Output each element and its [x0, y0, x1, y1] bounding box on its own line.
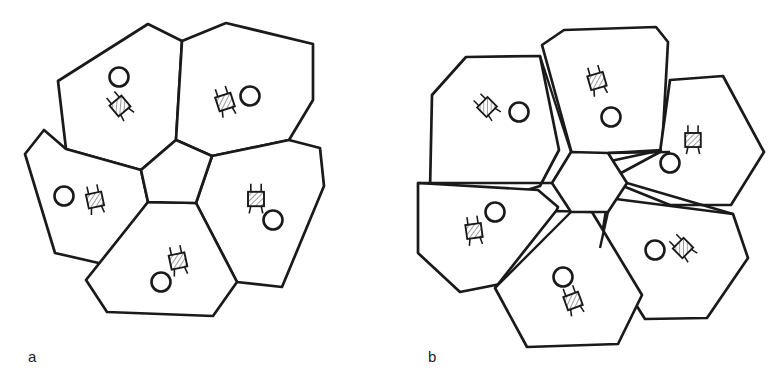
two-panel-floorplan-diagram	[0, 0, 776, 390]
figure-label-a: a	[28, 348, 37, 365]
figure-label-b: b	[428, 348, 437, 365]
room-b-top-outline	[542, 27, 668, 162]
panel-b	[418, 27, 764, 347]
panel-a	[25, 23, 324, 316]
figure-container: a b	[0, 0, 776, 390]
